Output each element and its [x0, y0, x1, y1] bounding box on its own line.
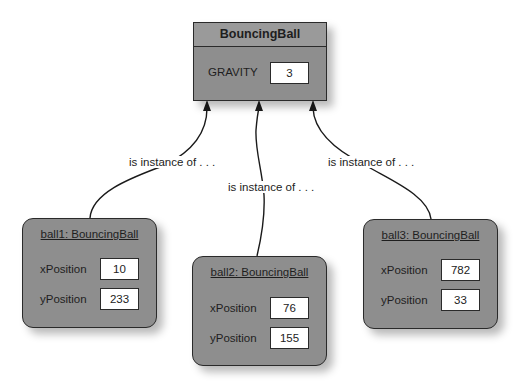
field-label-xposition: xPosition	[40, 263, 87, 275]
arrowhead-icon	[203, 100, 211, 111]
instance-title: ball1: BouncingBall	[23, 228, 156, 240]
class-box-bouncingball: BouncingBall GRAVITY 3	[193, 22, 327, 101]
edge-label-ball1: is instance of . . .	[127, 156, 217, 168]
field-value-xposition: 10	[100, 258, 139, 280]
diagram-canvas: is instance of . . . is instance of . . …	[0, 0, 523, 387]
field-label-yposition: yPosition	[210, 332, 257, 344]
field-value-xposition: 76	[270, 297, 309, 319]
instance-title: ball2: BouncingBall	[193, 266, 326, 278]
arrowhead-icon	[309, 100, 317, 111]
instance-box-ball3: ball3: BouncingBall xPosition 782 yPosit…	[363, 219, 498, 329]
field-value-xposition: 782	[441, 259, 480, 281]
field-label-xposition: xPosition	[381, 264, 428, 276]
edge-label-ball3: is instance of . . .	[326, 156, 416, 168]
field-value-gravity: 3	[270, 62, 309, 84]
field-label-yposition: yPosition	[381, 294, 428, 306]
field-value-yposition: 33	[441, 289, 480, 311]
field-label-xposition: xPosition	[210, 302, 257, 314]
field-value-yposition: 155	[270, 327, 309, 349]
arrowhead-icon	[255, 100, 263, 111]
field-label-gravity: GRAVITY	[208, 66, 258, 78]
class-name: BouncingBall	[194, 23, 326, 47]
field-value-yposition: 233	[100, 288, 139, 310]
instance-box-ball1: ball1: BouncingBall xPosition 10 yPositi…	[22, 218, 157, 328]
instance-box-ball2: ball2: BouncingBall xPosition 76 yPositi…	[192, 256, 327, 366]
field-label-yposition: yPosition	[40, 293, 87, 305]
instance-title: ball3: BouncingBall	[364, 229, 497, 241]
edge-label-ball2: is instance of . . .	[226, 181, 316, 193]
